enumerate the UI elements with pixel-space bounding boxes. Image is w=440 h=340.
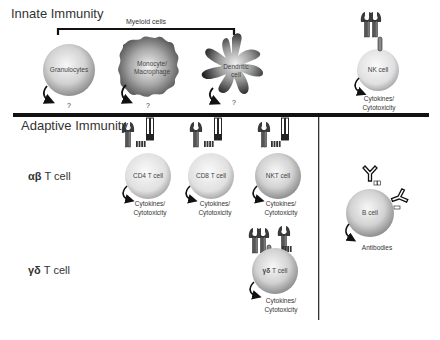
gamma-delta-output: Cytokines/ Cytotoxicity: [253, 297, 309, 314]
gamma-delta-t-cell-row-label: γδ T cell: [28, 264, 70, 276]
cd8-t-cell: [186, 118, 234, 200]
b-cell-output: Antibodies: [352, 244, 402, 253]
b-cell-label: B cell: [350, 209, 390, 217]
alpha-beta-t-cell-row-label: αβ T cell: [28, 170, 71, 182]
alpha-beta-symbol: αβ: [28, 170, 41, 182]
cd4-output: Cytokines/ Cytotoxicity: [122, 200, 178, 217]
dendritic-cell-label: Dendritic cell: [214, 63, 258, 79]
adaptive-immunity-title: Adaptive Immunity: [21, 118, 128, 133]
cd8-t-cell-label: CD8 T cell: [189, 172, 233, 180]
myeloid-cells-label: Myeloid cells: [126, 18, 166, 25]
nk-output: Cytokines/ Cytotoxicity: [351, 95, 407, 112]
section-divider-vertical: [318, 117, 319, 320]
cd4-t-cell-label: CD4 T cell: [126, 172, 170, 180]
gamma-delta-symbol: γδ: [28, 264, 41, 276]
gamma-delta-t-cell: [249, 226, 298, 296]
nk-cell: [355, 12, 399, 93]
monocyte-output: ?: [146, 102, 150, 109]
myeloid-bracket: [58, 29, 234, 35]
granulocytes-output: ?: [67, 102, 71, 109]
cd4-t-cell: [122, 118, 171, 200]
nk-cell-label: NK cell: [358, 66, 398, 74]
section-divider-horizontal: [13, 113, 429, 117]
nkt-output: Cytokines/ Cytotoxicity: [253, 200, 309, 217]
monocyte-macrophage-label: Monocyte/ Macrophage: [124, 60, 180, 76]
dendritic-output: ?: [232, 99, 236, 106]
innate-immunity-title: Innate Immunity: [11, 6, 104, 21]
b-cell: [346, 166, 409, 239]
granulocytes-label: Granulocytes: [45, 66, 93, 74]
gamma-delta-t-cell-label: γδ T cell: [253, 267, 297, 275]
cd8-output: Cytokines/ Cytotoxicity: [187, 200, 243, 217]
nkt-t-cell: [253, 118, 301, 200]
nkt-cell-label: NKT cell: [256, 172, 300, 180]
